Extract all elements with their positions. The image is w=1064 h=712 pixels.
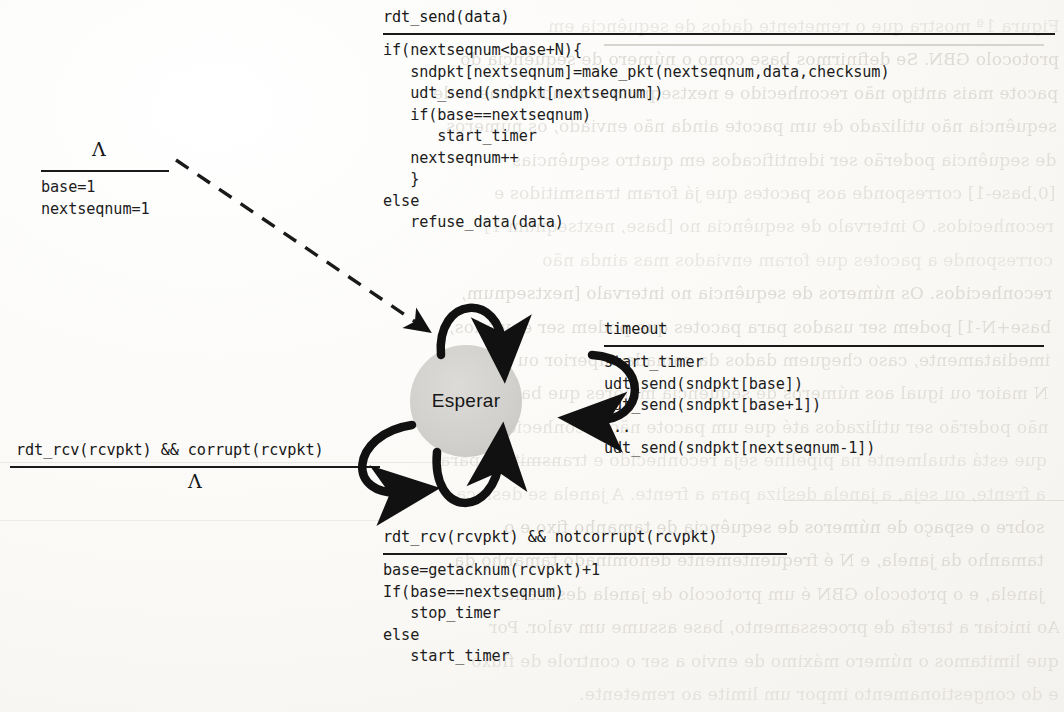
transition-rule-rdt-rcv-notcorrupt <box>383 553 787 555</box>
self-loop-bottom-left <box>362 425 412 493</box>
transition-action-lambda-corrupt: Λ <box>188 470 202 492</box>
init-rule <box>41 170 169 172</box>
fsm-state-label: Esperar <box>432 390 501 412</box>
ghost-text-line: base+N-1] podem ser usados para pacotes … <box>449 317 1051 337</box>
ghost-text-line: a frente, ou seja, a janela desliza para… <box>456 484 1046 504</box>
ghost-rule-mid <box>0 462 560 463</box>
self-loop-bottom <box>437 452 500 503</box>
ghost-text-line: corresponde a pacotes que foram enviados… <box>542 250 1053 270</box>
ghost-text-line: reconhecidos. Os números de sequência no… <box>461 283 1052 303</box>
ghost-rule-low <box>0 520 380 521</box>
transition-rule-rdt-send <box>383 33 1055 35</box>
transition-event-rdt-send: rdt_send(data) <box>383 8 510 26</box>
transition-rule-rdt-rcv-corrupt <box>10 466 380 468</box>
transition-event-rdt-rcv-notcorrupt: rdt_rcv(rcvpkt) && notcorrupt(rcvpkt) <box>383 528 718 546</box>
transition-actions-timeout: start_timer udt_send(sndpkt[base]) udt_s… <box>604 352 875 460</box>
transition-event-timeout: timeout <box>604 320 667 338</box>
transition-actions-rdt-send: if(nextseqnum<base+N){ sndpkt[nextseqnum… <box>383 40 889 234</box>
ghost-rule-right <box>784 500 1064 501</box>
transition-actions-rdt-rcv-notcorrupt: base=getacknum(rcvpkt)+1 If(base==nextse… <box>383 560 600 668</box>
init-event-lambda: Λ <box>92 138 106 160</box>
fsm-state-esperar: Esperar <box>410 345 522 457</box>
transition-rule-timeout <box>604 345 1044 347</box>
init-actions: base=1 nextseqnum=1 <box>41 177 150 220</box>
ghost-text-line: e do congestionamento impor um limite ao… <box>579 684 1058 704</box>
transition-event-rdt-rcv-corrupt: rdt_rcv(rcvpkt) && corrupt(rcvpkt) <box>16 441 323 459</box>
scanned-page: Figura 1ª mostra que o remetente dados d… <box>0 0 1064 712</box>
